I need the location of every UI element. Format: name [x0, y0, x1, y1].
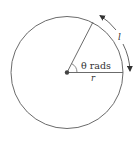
radius-label: r [91, 73, 96, 83]
arc-arrow-lower [123, 44, 130, 71]
angle-arc [72, 64, 77, 73]
center-dot [65, 70, 69, 74]
radian-diagram: θ rads r l [0, 0, 137, 144]
angle-label: θ rads [81, 60, 111, 71]
arc-arrow-upper [100, 16, 116, 31]
arc-length-label: l [118, 32, 121, 42]
